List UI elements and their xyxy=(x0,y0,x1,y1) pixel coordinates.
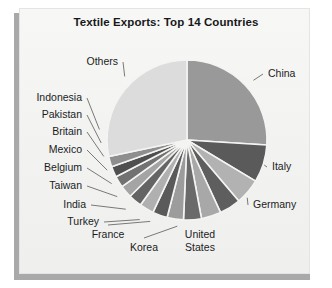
pie-label-germany: Germany xyxy=(253,199,296,211)
leader-line-italy xyxy=(264,165,267,167)
pie-label-india: India xyxy=(0,199,86,211)
leader-line-indonesia xyxy=(87,98,99,130)
pie-label-others: Others xyxy=(0,56,118,68)
pie-label-france: France xyxy=(48,229,168,241)
pie-label-china: China xyxy=(268,68,295,80)
pie-slice-china[interactable] xyxy=(187,60,267,145)
leader-line-taiwan xyxy=(87,186,117,197)
pie-label-korea: Korea xyxy=(84,242,204,254)
pie-label-mexico: Mexico xyxy=(0,144,82,156)
leader-line-germany xyxy=(247,198,248,205)
leader-line-others xyxy=(123,62,125,76)
leader-line-mexico xyxy=(87,150,107,170)
leader-line-china xyxy=(253,74,263,80)
pie-label-pakistan: Pakistan xyxy=(0,109,82,121)
pie-label-britain: Britain xyxy=(0,126,82,138)
pie-label-indonesia: Indonesia xyxy=(0,92,82,104)
pie-label-belgium: Belgium xyxy=(0,162,82,174)
leader-line-india xyxy=(91,205,126,209)
leader-line-belgium xyxy=(87,168,112,184)
leader-line-turkey xyxy=(104,220,140,222)
pie-slice-group xyxy=(107,60,267,220)
chart-figure: Textile Exports: Top 14 Countries ChinaI… xyxy=(0,0,332,288)
pie-slice-others[interactable] xyxy=(107,60,187,156)
pie-label-taiwan: Taiwan xyxy=(0,180,82,192)
leader-line-france xyxy=(108,221,150,225)
pie-label-italy: Italy xyxy=(272,161,291,173)
pie-label-turkey: Turkey xyxy=(0,216,99,228)
